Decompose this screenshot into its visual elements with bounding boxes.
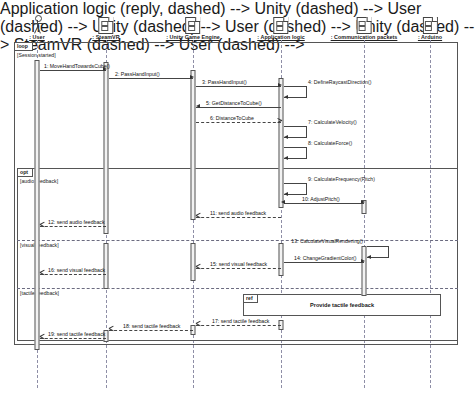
activation-user [35, 60, 40, 350]
object-node-icon [166, 14, 220, 34]
arrowhead-filled-right [190, 75, 194, 79]
arrowhead-open-left [109, 328, 114, 333]
object-node-icon [331, 14, 398, 34]
arrowhead-open-right [277, 120, 282, 125]
actor-stick-figure-icon [29, 14, 45, 34]
message-12-label: 12: send audio feedback [48, 219, 105, 225]
arrowhead-filled-left [284, 95, 288, 99]
arrowhead-open-left [196, 215, 201, 220]
arrowhead-filled-right [361, 200, 365, 204]
activation-applogic-2 [279, 243, 284, 276]
message-10-label: 10: AdjustPitch() [302, 196, 340, 202]
arrowhead-open-left [40, 224, 45, 229]
message-5-label: 5: GetDistanceToCube() [206, 100, 262, 106]
lifeline-head-user[interactable]: : User [29, 14, 45, 40]
arrowhead-open-left [196, 266, 201, 271]
message-11-label: 11: send audio feedback [210, 210, 266, 216]
message-16-label: 16: send visual feedback [48, 267, 105, 273]
arrowhead-filled-right [278, 83, 282, 87]
arrowhead-filled-left [367, 255, 371, 259]
message-17-label: 17: send tactile feedback [212, 318, 269, 324]
message-14-label: 14: ChangeGradientColor() [294, 255, 357, 261]
activation-unity-2 [191, 243, 196, 281]
fragment-opt-operator: opt [18, 169, 33, 177]
object-node-icon [418, 14, 442, 34]
fragment-loop-operator: loop [15, 43, 33, 51]
message-9-label: 9: CalculateFrequency(Pitch) [308, 176, 375, 182]
message-15-label: 15: send visual feedback [210, 261, 267, 267]
arrowhead-open-left [40, 272, 45, 277]
message-13-label: 13: CalculateVisualRendering() [291, 238, 363, 244]
message-18-label: 18: send tactile feedback [123, 323, 180, 329]
activation-steamvr-2 [104, 243, 109, 289]
message-6-label: 6: DistanceToCube [210, 115, 254, 121]
fragment-separator-visual [17, 240, 458, 241]
fragment-ref[interactable]: ref Provide tactile feedback [243, 294, 441, 316]
lifeline-head-arduino[interactable]: : Arduino [418, 14, 442, 40]
activation-packets-2 [362, 246, 367, 296]
arrowhead-open-left [40, 336, 45, 341]
message-7-label: 7: CalculateVelocity() [308, 119, 357, 125]
object-node-icon [257, 14, 304, 34]
sequence-diagram-canvas: : User : SteamVR : Unity Game Engine : A… [0, 0, 475, 394]
arrowhead-filled-left [281, 200, 285, 204]
arrowhead-open-left [196, 323, 201, 328]
arrowhead-filled-right [361, 259, 365, 263]
message-4-label: 4: DefineRaycastDirection() [308, 79, 371, 85]
activation-steamvr-1 [104, 62, 109, 234]
message-2-label: 2: PassHandInput() [115, 71, 160, 77]
activation-unity-1 [191, 70, 196, 220]
arrowhead-filled-left [284, 156, 288, 160]
arrowhead-filled-left [284, 192, 288, 196]
message-8-label: 8: CalculateForce() [308, 140, 352, 146]
object-node-icon [92, 14, 119, 34]
arrowhead-filled-left [196, 104, 200, 108]
lifeline-head-communication-packets[interactable]: : Communication packets [331, 14, 398, 40]
fragment-loop-guard: [Session started] [17, 52, 56, 58]
message-1-label: 1: MoveHandTowardsCube() [44, 63, 110, 69]
arrowhead-filled-left [284, 135, 288, 139]
fragment-separator-tactile [17, 288, 458, 289]
fragment-ref-label: Provide tactile feedback [244, 295, 440, 315]
lifeline-head-steamvr[interactable]: : SteamVR [92, 14, 119, 40]
lifeline-head-application-logic[interactable]: : Application logic [257, 14, 304, 40]
lifeline-head-unity[interactable]: : Unity Game Engine [166, 14, 220, 40]
message-19-label: 19: send tactile feedback [48, 331, 105, 337]
message-3-label: 3: PassHandInput() [202, 79, 247, 85]
